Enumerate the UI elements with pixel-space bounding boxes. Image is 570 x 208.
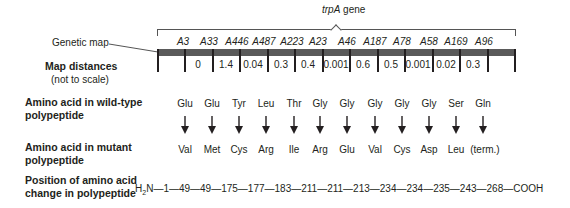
- down-arrow-icon: [234, 116, 244, 134]
- map-distances-label: Map distances: [45, 60, 117, 73]
- wild-type-label-line2: polypeptide: [25, 109, 142, 122]
- down-arrow-icon: [370, 116, 380, 134]
- map-distance: 0.6: [349, 59, 377, 70]
- wild-type-aa: Gln: [466, 98, 500, 109]
- position-label-line1: Position of amino acid: [25, 174, 137, 187]
- gene-name: trpA: [322, 4, 340, 15]
- map-distance: 0.5: [377, 59, 405, 70]
- gene-title: trpA gene: [322, 4, 365, 15]
- position-label: Position of amino acid change in polypep…: [25, 174, 137, 200]
- down-arrow-icon: [424, 116, 434, 134]
- down-arrow-icon: [451, 116, 461, 134]
- map-distance: 0.3: [267, 59, 295, 70]
- mutant-aa: (term.): [468, 144, 502, 155]
- down-arrow-icon: [207, 116, 217, 134]
- map-distance: 0.04: [239, 59, 267, 70]
- down-arrow-icon: [315, 116, 325, 134]
- map-tick: [514, 49, 516, 72]
- map-distance: 1.4: [212, 59, 240, 70]
- down-arrow-icon: [397, 116, 407, 134]
- down-arrow-icon: [478, 116, 488, 134]
- map-tick: [487, 49, 489, 72]
- mutant-label-line2: polypeptide: [25, 154, 132, 167]
- map-distance: 0.001: [322, 59, 350, 70]
- position-label-line2: change in polypeptide: [25, 187, 137, 200]
- map-tick: [157, 49, 159, 72]
- gene-suffix: gene: [340, 4, 365, 15]
- map-distance: 0.4: [294, 59, 322, 70]
- position-sequence: —1—49—49—175—177—183—211—211—213—234—234…: [153, 183, 543, 194]
- not-to-scale-label: (not to scale): [51, 74, 109, 85]
- map-distance: 0.02: [432, 59, 460, 70]
- wild-type-label-line1: Amino acid in wild-type: [25, 96, 142, 109]
- down-arrow-icon: [289, 116, 299, 134]
- mutant-label: Amino acid in mutant polypeptide: [25, 141, 132, 167]
- polypeptide-position-line: H2N—1—49—49—175—177—183—211—211—213—234—…: [135, 183, 543, 196]
- allele-label: A96: [464, 36, 504, 47]
- map-distance: 0: [184, 59, 212, 70]
- down-arrow-icon: [342, 116, 352, 134]
- genetic-map-pointer-icon: [108, 42, 160, 54]
- wild-type-label: Amino acid in wild-type polypeptide: [25, 96, 142, 122]
- mutant-label-line1: Amino acid in mutant: [25, 141, 132, 154]
- down-arrow-icon: [180, 116, 190, 134]
- down-arrow-icon: [261, 116, 271, 134]
- map-distance: 0.3: [459, 59, 487, 70]
- map-distance: 0.001: [404, 59, 432, 70]
- genetic-map-label: Genetic map: [52, 37, 109, 48]
